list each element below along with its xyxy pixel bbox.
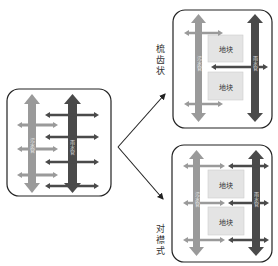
layout-label-paired: 对襟式 — [155, 224, 165, 257]
dark-pipe-label: 雨水管 — [253, 192, 259, 207]
arrow-to-comb — [118, 94, 165, 147]
arrow-to-paired — [118, 147, 163, 199]
dark-pipe-label: 雨水管 — [252, 56, 258, 71]
left-panel — [7, 89, 111, 196]
block-label: 地块 — [208, 44, 243, 54]
block-label: 地块 — [208, 180, 244, 190]
light-pipe-label: 污水管 — [196, 56, 202, 71]
layout-label-comb: 梳齿状 — [155, 44, 165, 77]
block-label: 地块 — [208, 217, 244, 227]
light-pipe-label: 污水管 — [29, 138, 35, 153]
branch-arrows — [118, 94, 165, 199]
light-pipe-label: 污水管 — [194, 192, 200, 207]
dark-pipe-label: 雨水管 — [69, 140, 75, 155]
block-label: 地块 — [208, 82, 243, 92]
